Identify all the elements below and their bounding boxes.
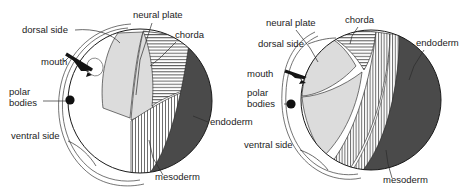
- right-label-neural-plate: neural plate: [266, 17, 316, 28]
- left-label-mouth: mouth: [41, 56, 67, 67]
- right-label-endoderm: endoderm: [416, 37, 459, 48]
- left-polar-bodies-dot: [65, 95, 74, 104]
- diagram-canvas: dorsal side neural plate chorda mouth po…: [0, 0, 474, 195]
- left-label-polar-bodies-line1: polar: [9, 86, 30, 97]
- right-label-mesoderm: mesoderm: [383, 174, 428, 185]
- left-label-mesoderm: mesoderm: [155, 171, 200, 182]
- left-label-chorda: chorda: [175, 29, 205, 40]
- right-label-dorsal-side: dorsal side: [258, 38, 304, 49]
- left-label-polar-bodies-line2: bodies: [9, 97, 37, 108]
- right-embryo-diagram: neural plate chorda dorsal side endoderm…: [244, 14, 459, 185]
- right-label-chorda: chorda: [345, 14, 375, 25]
- right-label-polar-bodies-line2: bodies: [247, 98, 275, 109]
- left-embryo-diagram: dorsal side neural plate chorda mouth po…: [9, 9, 253, 186]
- left-label-ventral-side: ventral side: [11, 130, 60, 141]
- right-label-ventral-side: ventral side: [244, 139, 293, 150]
- left-label-dorsal-side: dorsal side: [22, 24, 68, 35]
- left-label-neural-plate: neural plate: [133, 9, 183, 20]
- left-label-endoderm: endoderm: [210, 116, 253, 127]
- embryo-fate-map-figure: dorsal side neural plate chorda mouth po…: [0, 0, 474, 195]
- right-label-polar-bodies-line1: polar: [247, 87, 268, 98]
- right-label-mouth: mouth: [247, 68, 273, 79]
